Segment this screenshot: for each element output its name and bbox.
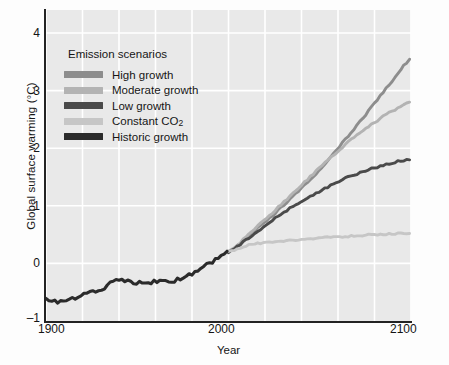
legend-label-constant-co2-text: Constant CO (112, 115, 178, 127)
y-axis-tick-labels: 4 3 2 1 0 –1 (4, 0, 40, 365)
climate-projection-chart: Global surface warming (°C) 4 3 2 1 0 –1… (0, 0, 449, 365)
x-tick-2000: 2000 (208, 322, 235, 336)
y-tick-2: 2 (6, 141, 40, 155)
series-line-high-growth (229, 59, 410, 251)
x-tick-2100: 2100 (390, 322, 417, 336)
legend-swatch-high-growth (64, 71, 103, 78)
series-line-historic-growth (46, 251, 227, 303)
x-tick-1900: 1900 (38, 322, 65, 336)
y-tick-3: 3 (6, 84, 40, 98)
legend-label-historic-growth: Historic growth (112, 131, 188, 143)
legend-title: Emission scenarios (68, 48, 234, 60)
series-line-moderate-growth (229, 102, 410, 252)
legend-swatch-low-growth (64, 102, 103, 109)
legend: Emission scenarios High growth Moderate … (64, 48, 234, 145)
legend-item-historic-growth: Historic growth (64, 129, 234, 145)
legend-item-moderate-growth: Moderate growth (64, 83, 234, 99)
legend-item-low-growth: Low growth (64, 98, 234, 114)
y-tick-4: 4 (6, 26, 40, 40)
legend-swatch-constant-co2 (64, 118, 103, 125)
legend-label-moderate-growth: Moderate growth (112, 84, 198, 96)
legend-label-constant-co2: Constant CO2 (112, 115, 183, 128)
legend-label-high-growth: High growth (112, 69, 173, 81)
x-axis-title: Year (45, 344, 412, 356)
legend-swatch-moderate-growth (64, 87, 103, 94)
legend-label-low-growth: Low growth (112, 100, 171, 112)
series-line-constant-co (229, 233, 410, 251)
y-tick-1: 1 (6, 199, 40, 213)
legend-label-constant-co2-subscript: 2 (178, 118, 183, 128)
legend-swatch-historic-growth (64, 133, 103, 140)
legend-item-constant-co2: Constant CO2 (64, 114, 234, 130)
y-tick-neg-1: –1 (6, 311, 40, 325)
y-tick-0: 0 (6, 256, 40, 270)
legend-item-high-growth: High growth (64, 67, 234, 83)
